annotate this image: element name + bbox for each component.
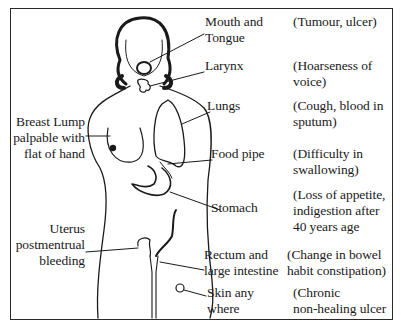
lung-icon [154,100,185,167]
leader-rectum [160,262,204,270]
leader-foodpipe [168,160,212,164]
symptom-skin: (Chronic non-healing ulcer [293,285,386,317]
skin-lesion-icon [176,284,184,292]
label-skin: Skin any where [207,285,254,317]
label-rectum: Rectum and large intestine [204,247,278,279]
symptom-mouth-tongue: (Tumour, ulcer) [293,14,377,30]
label-stomach: Stomach [211,200,258,216]
symptom-food-pipe: (Difficulty in swallowing) [293,146,363,178]
food-pipe-icon [160,162,172,178]
leader-mouth [150,34,204,62]
leader-larynx [150,72,204,86]
label-lungs: Lungs [207,98,240,114]
larynx-icon [138,79,151,92]
leader-lungs [182,112,210,124]
symptom-lungs: (Cough, blood in sputum) [293,98,383,130]
leader-uterus [86,248,138,252]
uterus-icon [138,238,151,256]
label-larynx: Larynx [205,58,243,74]
stomach-icon [132,166,171,195]
label-breast-lump: Breast Lump palpable with flat of hand [13,114,85,162]
symptom-larynx: (Hoarseness of voice) [293,58,372,90]
label-uterus: Uterus postmentrual bleeding [16,221,85,269]
leader-skin [184,290,206,296]
torso-outline [88,86,130,318]
label-mouth-tongue: Mouth and Tongue [205,14,263,46]
symptom-rectum: (Change in bowel habit constipation) [287,247,386,279]
label-food-pipe: Food pipe [211,146,264,162]
symptom-stomach: (Loss of appetite, indigestion after 40 … [293,187,385,235]
rectum-icon [156,210,176,256]
mouth-icon [137,62,151,74]
